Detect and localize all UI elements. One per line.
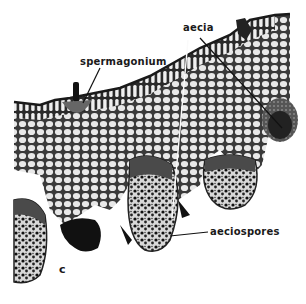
aecia-label: aecia: [183, 22, 214, 33]
spermagonium-label: spermagonium: [80, 56, 167, 67]
panel-letter: c: [59, 263, 66, 276]
aeciospores-label: aeciospores: [210, 226, 280, 237]
micrograph-figure: spermagonium aecia aeciospores c: [0, 0, 306, 304]
leaf-cross-section-image: [0, 0, 306, 304]
